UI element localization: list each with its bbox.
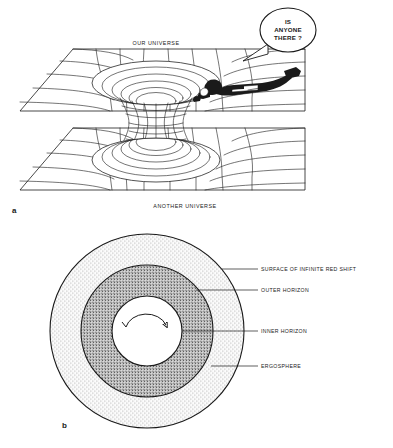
inner-horizon-circle	[112, 296, 182, 366]
speech-bubble-line-2: ANYONE	[274, 26, 302, 33]
bottom-sheet-label: ANOTHER UNIVERSE	[153, 203, 216, 209]
speech-bubble-line-3: THERE ?	[274, 34, 302, 41]
figure-root: OUR UNIVERSE	[0, 0, 393, 448]
label-ergosphere: ERGOSPHERE	[261, 363, 301, 369]
label-surface-of-infinite-red-shift: SURFACE OF INFINITE RED SHIFT	[261, 266, 357, 272]
speech-bubble-line-1: IS	[285, 18, 291, 25]
scientific-figure: OUR UNIVERSE	[0, 0, 393, 448]
panel-b-letter: b	[62, 421, 67, 430]
panel-a-letter: a	[12, 206, 17, 215]
top-throat-mouth	[92, 61, 220, 105]
label-inner-horizon: INNER HORIZON	[261, 328, 307, 334]
top-sheet-label: OUR UNIVERSE	[132, 40, 179, 46]
label-outer-horizon: OUTER HORIZON	[261, 287, 309, 293]
bottom-throat-mouth	[92, 138, 220, 182]
